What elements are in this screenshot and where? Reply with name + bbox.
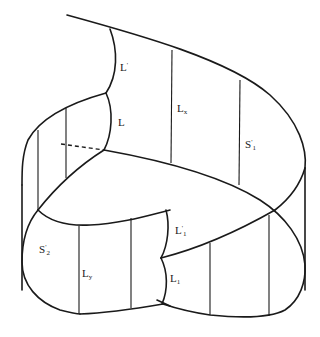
ruling-Lx: [171, 50, 172, 163]
left-band-top-edge: [22, 93, 106, 185]
label-L: L: [118, 117, 125, 128]
label-L-prime: L': [120, 62, 128, 73]
lower-left-lobe: [22, 210, 80, 314]
right-crossing-curve: [275, 168, 305, 210]
seam-L-prime: [106, 29, 116, 93]
label-L1-prime: L'1: [175, 225, 187, 238]
label-S2-prime: S'2: [39, 244, 50, 257]
label-S1-prime: S'1: [245, 139, 256, 152]
ruling-S1: [239, 80, 240, 185]
inner-band-top-edge: [38, 210, 170, 225]
seam-L: [104, 93, 111, 150]
label-Ly: Ly: [82, 268, 92, 281]
upper-band-bottom-edge: [104, 150, 305, 317]
front-band-bottom-edge: [80, 304, 163, 314]
front-band-diagonal: [38, 150, 104, 210]
label-Lx: Lx: [177, 103, 187, 116]
upper-band-top-edge: [67, 15, 305, 168]
hidden-dashed-line: [61, 144, 104, 150]
seam-L1: [161, 258, 166, 304]
label-L1: L1: [170, 273, 180, 286]
seam-L1-prime: [161, 210, 168, 258]
band-surface-diagram: [0, 0, 320, 337]
